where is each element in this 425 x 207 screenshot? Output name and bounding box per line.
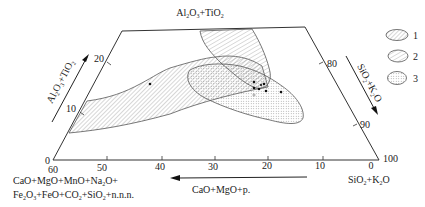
left-tick-10: 10 <box>66 103 76 114</box>
legend-item-1: 1 <box>386 30 418 42</box>
legend-item-3: 3 <box>388 72 419 85</box>
arrow-up-icon <box>82 54 89 62</box>
arrow-left-icon <box>170 175 180 181</box>
svg-text:2: 2 <box>413 51 418 62</box>
right-axis-label: SiO2+K2O <box>354 62 384 104</box>
left-axis-label: Al2O3+TiO2 <box>44 58 77 106</box>
bottom-tick-30: 30 <box>208 161 218 172</box>
bottom-axis: 60 50 40 30 20 10 0 <box>48 156 374 175</box>
bottom-tick-0: 0 <box>369 160 374 171</box>
bottom-tick-50: 50 <box>97 162 107 173</box>
left-tick-20: 20 <box>94 53 104 64</box>
bottom-axis-arrow <box>170 175 307 181</box>
bottom-tick-60: 60 <box>48 164 58 175</box>
bottom-tick-40: 40 <box>155 161 165 172</box>
top-label: Al2O3+TiO2 <box>176 7 224 19</box>
bottom-tick-20: 20 <box>262 160 272 171</box>
svg-text:3: 3 <box>413 73 418 84</box>
right-tick-80: 80 <box>327 58 337 69</box>
right-axis-arrow: SiO2+K2O <box>346 56 385 115</box>
bottom-left-label-line2: Fe2O3+FeO+CO2+SiO2+n.n.n. <box>13 189 134 201</box>
svg-text:1: 1 <box>413 30 418 41</box>
legend-item-2: 2 <box>388 50 418 62</box>
arrow-down-icon <box>371 106 378 115</box>
legend: 1 2 3 <box>386 30 418 85</box>
geochemical-diagram: Al2O3+TiO2 0 10 20 Al2O3+TiO2 80 90 100 … <box>0 0 425 207</box>
bottom-tick-10: 10 <box>315 160 325 171</box>
field-3 <box>188 64 304 124</box>
bottom-right-label: SiO2+K2O <box>348 174 390 186</box>
right-tick-90: 90 <box>360 119 370 130</box>
right-tick-100: 100 <box>383 153 398 164</box>
bottom-left-label-line1: CaO+MgO+MnO+Na2O+ <box>13 175 118 187</box>
bottom-arrow-label: CaO+MgO+p. <box>192 184 250 195</box>
